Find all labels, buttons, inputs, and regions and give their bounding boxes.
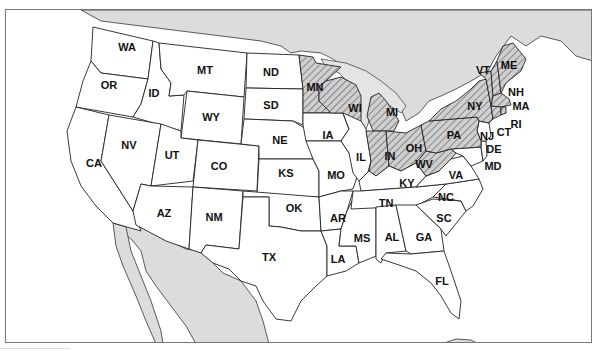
cuba-region bbox=[441, 339, 479, 343]
map-frame: WA OR ID CA NV MT WY UT CO AZ NM ND SD N… bbox=[5, 9, 592, 343]
label-la: LA bbox=[331, 253, 346, 265]
label-in: IN bbox=[385, 150, 396, 162]
label-il: IL bbox=[356, 151, 366, 163]
label-az: AZ bbox=[157, 207, 172, 219]
label-ky: KY bbox=[399, 177, 415, 189]
label-md: MD bbox=[484, 160, 501, 172]
label-nv: NV bbox=[121, 139, 137, 151]
state-wa bbox=[91, 27, 153, 79]
label-ks: KS bbox=[278, 167, 293, 179]
label-co: CO bbox=[211, 160, 228, 172]
label-ok: OK bbox=[286, 202, 303, 214]
label-wy: WY bbox=[202, 111, 220, 123]
label-pa: PA bbox=[447, 129, 462, 141]
label-or: OR bbox=[101, 79, 118, 91]
label-mn: MN bbox=[306, 81, 323, 93]
label-ma: MA bbox=[512, 100, 529, 112]
label-ar: AR bbox=[330, 212, 346, 224]
bottom-rule bbox=[0, 348, 70, 349]
label-wi: WI bbox=[348, 102, 361, 114]
label-sc: SC bbox=[436, 212, 451, 224]
label-mi: MI bbox=[386, 106, 398, 118]
us-map: WA OR ID CA NV MT WY UT CO AZ NM ND SD N… bbox=[6, 10, 592, 343]
label-mo: MO bbox=[327, 169, 345, 181]
label-ne: NE bbox=[272, 134, 287, 146]
label-nd: ND bbox=[263, 66, 279, 78]
state-ri bbox=[501, 107, 506, 115]
label-nh: NH bbox=[508, 86, 524, 98]
label-nc: NC bbox=[438, 191, 454, 203]
label-ca: CA bbox=[86, 157, 102, 169]
label-tn: TN bbox=[379, 197, 394, 209]
label-id: ID bbox=[149, 87, 160, 99]
label-nm: NM bbox=[205, 211, 222, 223]
state-ct bbox=[491, 106, 501, 119]
label-ri: RI bbox=[511, 118, 522, 130]
label-ga: GA bbox=[416, 231, 433, 243]
label-ia: IA bbox=[323, 129, 334, 141]
label-mt: MT bbox=[197, 64, 213, 76]
state-fl bbox=[381, 251, 461, 319]
label-ut: UT bbox=[165, 149, 180, 161]
label-nj: NJ bbox=[480, 130, 494, 142]
label-tx: TX bbox=[262, 251, 277, 263]
label-de: DE bbox=[486, 143, 501, 155]
label-ms: MS bbox=[354, 232, 371, 244]
label-vt: VT bbox=[476, 64, 490, 76]
label-wa: WA bbox=[118, 41, 136, 53]
label-oh: OH bbox=[406, 142, 423, 154]
label-me: ME bbox=[501, 59, 518, 71]
label-va: VA bbox=[449, 169, 464, 181]
label-sd: SD bbox=[263, 99, 278, 111]
label-fl: FL bbox=[435, 275, 449, 287]
label-ny: NY bbox=[467, 100, 483, 112]
label-ct: CT bbox=[497, 126, 512, 138]
label-al: AL bbox=[385, 231, 400, 243]
label-wv: WV bbox=[415, 158, 433, 170]
